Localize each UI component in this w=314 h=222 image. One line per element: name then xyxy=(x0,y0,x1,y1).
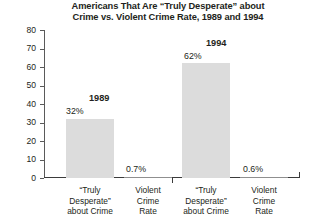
y-tick-label-80: 80 xyxy=(12,26,36,35)
category-label-line-2: Desperate” xyxy=(58,196,122,207)
bar-1994-truly-desperate xyxy=(182,63,230,178)
category-label-1989-violent-crime-rate: Violent Crime Rate xyxy=(122,185,174,217)
category-label-line-3: about Crime xyxy=(174,206,238,217)
y-tick-label-20: 20 xyxy=(12,137,36,146)
group-label-1994: 1994 xyxy=(206,39,226,48)
bar-value-label-1994-truly-desperate: 62% xyxy=(184,52,202,61)
category-label-1989-truly-desperate: “Truly Desperate” about Crime xyxy=(58,185,122,217)
y-tick-10 xyxy=(40,160,44,161)
y-tick-label-10: 10 xyxy=(12,155,36,164)
bar-1994-violent-crime-rate xyxy=(240,177,288,178)
chart-title-line-2: Crime vs. Violent Crime Rate, 1989 and 1… xyxy=(40,12,296,23)
y-tick-70 xyxy=(40,49,44,50)
y-tick-label-70: 70 xyxy=(12,44,36,53)
category-label-1994-truly-desperate: “Truly Desperate” about Crime xyxy=(174,185,238,217)
y-tick-0 xyxy=(40,178,44,179)
category-label-line-2: Crime xyxy=(238,196,290,207)
bar-chart: Americans That Are “Truly Desperate” abo… xyxy=(0,0,314,222)
y-tick-label-40: 40 xyxy=(12,100,36,109)
y-tick-20 xyxy=(40,141,44,142)
bar-value-label-1989-truly-desperate: 32% xyxy=(66,107,84,116)
bar-1989-violent-crime-rate xyxy=(124,177,172,178)
category-label-1994-violent-crime-rate: Violent Crime Rate xyxy=(238,185,290,217)
y-tick-label-30: 30 xyxy=(12,118,36,127)
category-label-line-3: Rate xyxy=(238,206,290,217)
chart-title: Americans That Are “Truly Desperate” abo… xyxy=(40,1,296,23)
category-label-line-1: “Truly xyxy=(58,185,122,196)
x-axis-end-tick xyxy=(299,172,300,177)
y-tick-label-50: 50 xyxy=(12,81,36,90)
y-tick-30 xyxy=(40,123,44,124)
y-tick-60 xyxy=(40,67,44,68)
y-tick-50 xyxy=(40,86,44,87)
bar-value-label-1989-violent-crime-rate: 0.7% xyxy=(126,165,146,174)
x-axis-group-separator-tick xyxy=(172,178,173,183)
group-label-1989: 1989 xyxy=(89,94,109,103)
category-label-line-1: Violent xyxy=(238,185,290,196)
category-label-line-3: Rate xyxy=(122,206,174,217)
category-label-line-3: about Crime xyxy=(58,206,122,217)
chart-title-line-1: Americans That Are “Truly Desperate” abo… xyxy=(72,1,265,11)
category-label-line-2: Crime xyxy=(122,196,174,207)
y-tick-label-60: 60 xyxy=(12,63,36,72)
y-tick-80 xyxy=(40,30,44,31)
bar-1989-truly-desperate xyxy=(66,119,114,178)
category-label-line-2: Desperate” xyxy=(174,196,238,207)
category-label-line-1: Violent xyxy=(122,185,174,196)
y-tick-label-0: 0 xyxy=(12,174,36,183)
y-axis-line xyxy=(44,30,45,178)
y-tick-40 xyxy=(40,104,44,105)
category-label-line-1: “Truly xyxy=(174,185,238,196)
bar-value-label-1994-violent-crime-rate: 0.6% xyxy=(243,165,263,174)
